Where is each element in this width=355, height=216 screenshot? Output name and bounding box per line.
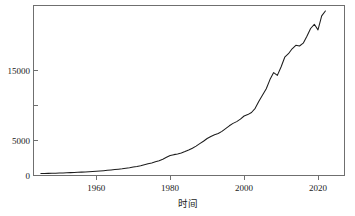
y-tick-label-5000: 5000 [12,136,31,146]
x-tick-label-1960: 1960 [87,183,106,193]
x-axis-title: 时间 [178,198,198,209]
x-tick-label-2020: 2020 [309,183,328,193]
line-chart: 0 5000 15000 1960 1980 2000 2020 时间 [0,0,355,216]
data-series-line [41,11,326,174]
x-tick-label-1980: 1980 [161,183,180,193]
y-tick-label-15000: 15000 [8,66,31,76]
x-tick-label-2000: 2000 [235,183,254,193]
chart-screenshot: 0 5000 15000 1960 1980 2000 2020 时间 [0,0,355,216]
y-axis-ticks [34,71,39,176]
x-axis-ticks [96,176,318,181]
y-tick-label-0: 0 [26,171,31,181]
